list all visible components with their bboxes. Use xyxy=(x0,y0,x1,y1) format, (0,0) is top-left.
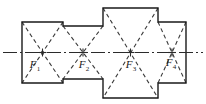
section-f3-label: F3 xyxy=(125,58,137,73)
stepped-shaft-drawing: F1F2F3F4 xyxy=(0,0,206,104)
section-f4-label: F4 xyxy=(165,56,177,71)
center-mark-f3 xyxy=(127,49,135,57)
section-f4-label-subscript: 4 xyxy=(173,63,177,71)
center-mark-f1 xyxy=(39,49,47,57)
engineering-drawing-figure: F1F2F3F4 xyxy=(0,0,206,104)
section-f2-label-subscript: 2 xyxy=(86,65,90,73)
section-f2-label: F2 xyxy=(78,58,90,73)
section-f3-label-subscript: 3 xyxy=(133,65,137,73)
section-f1-label-subscript: 1 xyxy=(37,65,41,73)
